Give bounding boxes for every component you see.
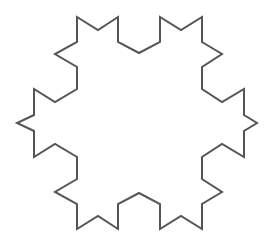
- koch-snowflake-figure: [0, 0, 264, 246]
- diagram-canvas: [0, 0, 264, 246]
- koch-snowflake-outline: [17, 17, 257, 229]
